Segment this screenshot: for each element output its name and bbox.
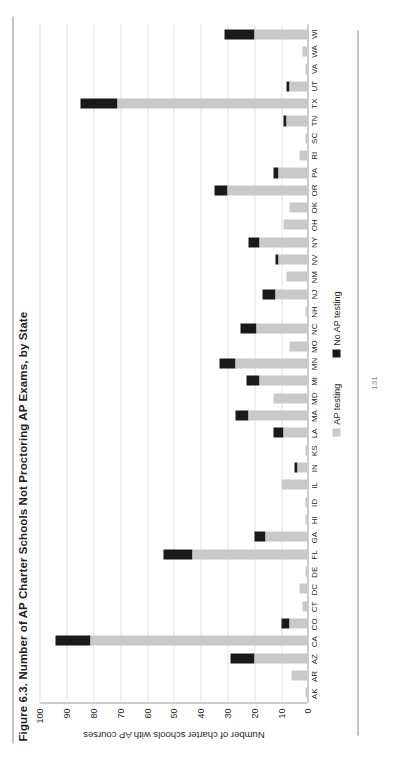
bar-column-GA[interactable] bbox=[39, 528, 307, 545]
bar-column-WA[interactable] bbox=[39, 43, 307, 60]
bar-segment-no-ap-testing-WI[interactable] bbox=[224, 29, 253, 39]
bar-column-AK[interactable] bbox=[39, 684, 307, 701]
stacked-bar-TX[interactable] bbox=[80, 98, 308, 108]
stacked-bar-MI[interactable] bbox=[246, 375, 308, 385]
bar-column-MA[interactable] bbox=[39, 406, 307, 423]
bar-segment-no-ap-testing-FL[interactable] bbox=[163, 549, 192, 559]
bar-column-FL[interactable] bbox=[39, 545, 307, 562]
bar-column-TN[interactable] bbox=[39, 112, 307, 129]
bar-column-HI[interactable] bbox=[39, 510, 307, 527]
bar-column-DC[interactable] bbox=[39, 580, 307, 597]
bar-segment-ap-testing-DC[interactable] bbox=[299, 583, 307, 593]
bar-segment-ap-testing-LA[interactable] bbox=[283, 427, 307, 437]
stacked-bar-MA[interactable] bbox=[235, 410, 307, 420]
stacked-bar-RI[interactable] bbox=[299, 150, 307, 160]
bar-segment-ap-testing-UT[interactable] bbox=[289, 81, 308, 91]
bar-column-CT[interactable] bbox=[39, 597, 307, 614]
bar-column-AR[interactable] bbox=[39, 666, 307, 683]
bar-segment-no-ap-testing-CO[interactable] bbox=[281, 618, 289, 628]
stacked-bar-WA[interactable] bbox=[302, 46, 307, 56]
stacked-bar-NM[interactable] bbox=[286, 271, 307, 281]
bar-segment-ap-testing-WI[interactable] bbox=[254, 29, 308, 39]
bar-segment-no-ap-testing-CA[interactable] bbox=[55, 635, 90, 645]
stacked-bar-CO[interactable] bbox=[281, 618, 308, 628]
stacked-bar-SC[interactable] bbox=[305, 133, 308, 143]
bar-column-VA[interactable] bbox=[39, 60, 307, 77]
bar-column-PA[interactable] bbox=[39, 164, 307, 181]
bar-segment-ap-testing-MN[interactable] bbox=[235, 358, 307, 368]
stacked-bar-AK[interactable] bbox=[305, 687, 308, 697]
bar-segment-ap-testing-RI[interactable] bbox=[299, 150, 307, 160]
bar-segment-no-ap-testing-OR[interactable] bbox=[214, 185, 227, 195]
stacked-bar-NJ[interactable] bbox=[262, 289, 308, 299]
bar-segment-no-ap-testing-MI[interactable] bbox=[246, 375, 259, 385]
bar-segment-ap-testing-FL[interactable] bbox=[192, 549, 307, 559]
bar-column-WI[interactable] bbox=[39, 25, 307, 42]
bar-segment-ap-testing-OH[interactable] bbox=[283, 219, 307, 229]
bar-segment-ap-testing-MI[interactable] bbox=[259, 375, 307, 385]
bar-column-CA[interactable] bbox=[39, 632, 307, 649]
bar-column-CO[interactable] bbox=[39, 614, 307, 631]
stacked-bar-AZ[interactable] bbox=[230, 653, 308, 663]
stacked-bar-PA[interactable] bbox=[273, 167, 308, 177]
bar-column-NY[interactable] bbox=[39, 233, 307, 250]
bar-segment-no-ap-testing-TX[interactable] bbox=[80, 98, 118, 108]
bar-segment-no-ap-testing-MN[interactable] bbox=[219, 358, 235, 368]
bar-column-LA[interactable] bbox=[39, 424, 307, 441]
stacked-bar-UT[interactable] bbox=[286, 81, 307, 91]
stacked-bar-FL[interactable] bbox=[163, 549, 308, 559]
bar-segment-ap-testing-AK[interactable] bbox=[305, 687, 308, 697]
bar-segment-no-ap-testing-LA[interactable] bbox=[273, 427, 284, 437]
stacked-bar-MD[interactable] bbox=[273, 393, 308, 403]
bar-segment-no-ap-testing-MA[interactable] bbox=[235, 410, 248, 420]
bar-column-OK[interactable] bbox=[39, 198, 307, 215]
stacked-bar-TN[interactable] bbox=[283, 115, 307, 125]
bar-segment-ap-testing-GA[interactable] bbox=[265, 531, 308, 541]
bar-segment-ap-testing-MD[interactable] bbox=[273, 393, 308, 403]
bar-segment-ap-testing-MO[interactable] bbox=[289, 341, 308, 351]
bar-column-MI[interactable] bbox=[39, 372, 307, 389]
bar-segment-ap-testing-TX[interactable] bbox=[117, 98, 307, 108]
stacked-bar-KS[interactable] bbox=[305, 445, 308, 455]
stacked-bar-OH[interactable] bbox=[283, 219, 307, 229]
bar-column-RI[interactable] bbox=[39, 147, 307, 164]
stacked-bar-MN[interactable] bbox=[219, 358, 307, 368]
bar-segment-ap-testing-OK[interactable] bbox=[289, 202, 308, 212]
stacked-bar-GA[interactable] bbox=[254, 531, 308, 541]
bar-segment-ap-testing-SC[interactable] bbox=[305, 133, 308, 143]
stacked-bar-LA[interactable] bbox=[273, 427, 308, 437]
bar-segment-no-ap-testing-NC[interactable] bbox=[240, 323, 256, 333]
stacked-bar-IL[interactable] bbox=[281, 479, 308, 489]
stacked-bar-IN[interactable] bbox=[294, 462, 307, 472]
stacked-bar-NY[interactable] bbox=[248, 237, 307, 247]
bar-column-MD[interactable] bbox=[39, 389, 307, 406]
stacked-bar-OK[interactable] bbox=[289, 202, 308, 212]
bar-segment-ap-testing-OR[interactable] bbox=[227, 185, 307, 195]
stacked-bar-HI[interactable] bbox=[305, 514, 308, 524]
stacked-bar-OR[interactable] bbox=[214, 185, 308, 195]
bar-column-NH[interactable] bbox=[39, 302, 307, 319]
bar-segment-ap-testing-WA[interactable] bbox=[302, 46, 307, 56]
bar-column-MO[interactable] bbox=[39, 337, 307, 354]
bar-column-SC[interactable] bbox=[39, 129, 307, 146]
bar-column-UT[interactable] bbox=[39, 77, 307, 94]
bar-segment-ap-testing-HI[interactable] bbox=[305, 514, 308, 524]
bar-segment-no-ap-testing-NY[interactable] bbox=[248, 237, 259, 247]
stacked-bar-CA[interactable] bbox=[55, 635, 307, 645]
bar-column-MN[interactable] bbox=[39, 354, 307, 371]
bar-segment-ap-testing-KS[interactable] bbox=[305, 445, 308, 455]
stacked-bar-DC[interactable] bbox=[299, 583, 307, 593]
bar-segment-ap-testing-NC[interactable] bbox=[256, 323, 307, 333]
bar-column-DE[interactable] bbox=[39, 562, 307, 579]
stacked-bar-AR[interactable] bbox=[291, 670, 307, 680]
stacked-bar-NC[interactable] bbox=[240, 323, 307, 333]
stacked-bar-NH[interactable] bbox=[305, 306, 308, 316]
bar-column-AZ[interactable] bbox=[39, 649, 307, 666]
bar-segment-ap-testing-IN[interactable] bbox=[297, 462, 308, 472]
stacked-bar-ID[interactable] bbox=[305, 497, 308, 507]
bar-segment-ap-testing-ID[interactable] bbox=[305, 497, 308, 507]
bar-column-ID[interactable] bbox=[39, 493, 307, 510]
bar-segment-no-ap-testing-AZ[interactable] bbox=[230, 653, 254, 663]
bar-segment-ap-testing-AZ[interactable] bbox=[254, 653, 308, 663]
bar-column-TX[interactable] bbox=[39, 95, 307, 112]
